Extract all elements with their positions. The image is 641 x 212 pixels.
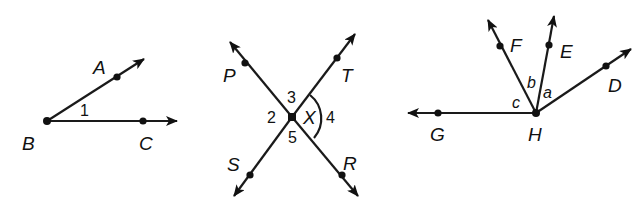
angle-label-1: 1 (80, 102, 89, 119)
angle-label-2: 2 (267, 109, 276, 126)
ray-xs (234, 117, 292, 196)
label-b: B (22, 133, 35, 154)
label-x: X (302, 107, 317, 128)
label-a: A (92, 57, 106, 78)
angle-label-a: a (543, 84, 552, 101)
point-s (246, 171, 253, 178)
angle-label-4: 4 (326, 109, 335, 126)
label-d: D (608, 75, 622, 96)
figure-rays-from-h: F E D G H a b c (408, 16, 631, 145)
point-p (241, 59, 248, 66)
angle-label-3: 3 (287, 89, 296, 106)
point-f (496, 42, 503, 49)
label-e: E (560, 41, 573, 62)
point-g (434, 109, 441, 116)
figure-angle-abc: A 1 B C (22, 57, 177, 154)
label-g: G (430, 124, 445, 145)
label-c: C (139, 133, 153, 154)
angle-label-b: b (527, 74, 536, 91)
point-c (139, 117, 146, 124)
label-h: H (528, 124, 542, 145)
figure-intersecting-lines: P T S R X 2 3 4 5 (223, 34, 358, 196)
label-s: S (227, 154, 240, 175)
point-t (333, 54, 340, 61)
ray-xp (230, 42, 292, 117)
point-x (288, 113, 296, 121)
label-t: T (341, 65, 354, 86)
point-a (113, 73, 120, 80)
angle-label-5: 5 (288, 129, 297, 146)
point-b (43, 117, 51, 125)
point-d (602, 62, 609, 69)
label-r: R (343, 153, 357, 174)
point-h (532, 109, 540, 117)
label-f: F (510, 35, 523, 56)
angle-label-c: c (512, 94, 520, 111)
label-p: P (223, 65, 236, 86)
point-e (545, 41, 552, 48)
geometry-diagram: A 1 B C P T S R X 2 3 4 5 F E (0, 0, 641, 212)
